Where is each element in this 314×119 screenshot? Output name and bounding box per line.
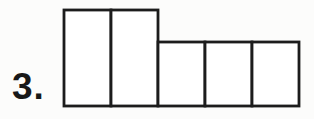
bar-model-figure <box>0 0 314 119</box>
figure-cell-4 <box>205 42 252 106</box>
figure-cell-2 <box>111 10 158 106</box>
figure-cell-1 <box>64 10 111 106</box>
worksheet-page: 3. <box>0 0 314 119</box>
figure-cell-3 <box>158 42 205 106</box>
figure-cell-5 <box>252 42 299 106</box>
